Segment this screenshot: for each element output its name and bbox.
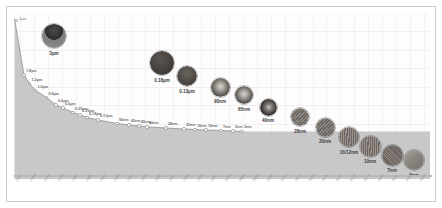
- curve-point-label: 1.8µm: [26, 69, 37, 73]
- die-thumbnail-image: [339, 127, 359, 147]
- curve-point-label: 40nm: [149, 121, 159, 125]
- curve-point-marker: [204, 128, 207, 131]
- die-thumbnail-image: [260, 99, 277, 116]
- die-thumbnail: [41, 23, 67, 49]
- die-thumbnail-label: 20nm: [319, 139, 331, 144]
- curve-point-label: 20nm: [186, 123, 196, 127]
- die-thumbnail: [234, 85, 254, 105]
- die-thumbnail: [210, 77, 231, 98]
- curve-point-label: 90nm: [119, 118, 129, 122]
- die-thumbnail-image: [211, 78, 230, 97]
- curve-point-label: 0.13µm: [100, 114, 113, 118]
- die-thumbnail-image: [382, 145, 403, 166]
- curve-point-marker: [231, 129, 234, 132]
- die-thumbnail-image: [177, 66, 197, 86]
- die-thumbnail: [381, 144, 404, 167]
- die-thumbnail-image: [150, 51, 174, 75]
- curve-point-marker: [240, 130, 243, 133]
- die-thumbnail-label: 90nm: [214, 99, 226, 104]
- die-thumbnail: [403, 149, 425, 171]
- curve-point-marker: [219, 129, 222, 132]
- curve-point-marker: [22, 73, 25, 76]
- curve-point-label: 5nm: [235, 125, 243, 129]
- curve-point-label: 0.8µm: [49, 92, 60, 96]
- curve-point-label: 16nm: [197, 124, 207, 128]
- die-thumbnail-label: 0.13µm: [179, 89, 195, 94]
- curve-point-marker: [182, 127, 185, 130]
- die-thumbnail-label: 28nm: [294, 129, 306, 134]
- die-thumbnail: [176, 65, 198, 87]
- die-thumbnail-label: 3µm: [49, 51, 58, 56]
- axis-corner-marker: [15, 19, 18, 22]
- die-thumbnail-image: [42, 24, 66, 48]
- curve-point-label: 28nm: [168, 122, 178, 126]
- curve-point-label: 0.5µm: [65, 102, 76, 106]
- curve-point-label: 65nm: [131, 119, 141, 123]
- curve-point-marker: [85, 116, 88, 119]
- die-thumbnail-image: [316, 118, 335, 137]
- curve-point-label: 3nm: [244, 125, 252, 129]
- die-thumbnail-label: 10nm: [364, 159, 376, 164]
- die-thumbnail-image: [291, 108, 309, 126]
- die-thumbnail: [338, 126, 360, 148]
- axis-corner-label: 1µm: [19, 17, 26, 21]
- curve-point-marker: [54, 103, 57, 106]
- die-thumbnail-label: 65nm: [238, 107, 250, 112]
- curve-point-marker: [78, 113, 81, 116]
- die-thumbnail: [290, 107, 310, 127]
- curve-point-marker: [164, 126, 167, 129]
- die-thumbnail: [359, 135, 382, 158]
- die-thumbnail-label: 40nm: [262, 118, 274, 123]
- die-thumbnail-image: [404, 150, 424, 170]
- die-thumbnail: [259, 98, 278, 117]
- die-thumbnail: [315, 117, 336, 138]
- curve-point-marker: [137, 124, 140, 127]
- curve-point-marker: [115, 122, 118, 125]
- plot-area: 1.8µm1.2µm1.0µm0.8µm0.6µm0.5µm0.35µm0.25…: [14, 13, 430, 179]
- curve-point-label: 7nm: [223, 125, 231, 129]
- chart-figure: 1.8µm1.2µm1.0µm0.8µm0.6µm0.5µm0.35µm0.25…: [0, 0, 442, 208]
- curve-point-marker: [127, 123, 130, 126]
- curve-point-marker: [61, 106, 64, 109]
- curve-point-label: 1.2µm: [32, 78, 43, 82]
- curve-point-label: 1.0µm: [38, 85, 49, 89]
- curve-point-marker: [71, 111, 74, 114]
- curve-point-marker: [96, 118, 99, 121]
- die-thumbnail-label: 0.18µm: [154, 78, 170, 83]
- die-thumbnail: [149, 50, 175, 76]
- curve-point-label: 10nm: [208, 124, 218, 128]
- die-thumbnail-image: [360, 136, 381, 157]
- die-thumbnail-image: [235, 86, 253, 104]
- curve-point-marker: [193, 128, 196, 131]
- curve-point-marker: [145, 125, 148, 128]
- die-thumbnail-label: 16/12nm: [340, 150, 358, 155]
